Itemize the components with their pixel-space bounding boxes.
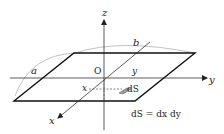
z-axis-label: z xyxy=(101,7,108,18)
inner-x-label: x xyxy=(82,83,87,93)
ds-label: dS xyxy=(127,84,139,94)
side-b-label: b xyxy=(133,37,139,48)
side-a-label: a xyxy=(31,65,37,76)
surface-element-diagram: z y x O a b y x dS dS = dx dy xyxy=(0,0,224,134)
x-axis-label: x xyxy=(49,115,55,126)
origin-label: O xyxy=(94,66,101,76)
inner-y-label: y xyxy=(131,66,138,76)
ds-formula: dS = dx dy xyxy=(131,109,182,119)
y-axis-label: y xyxy=(208,74,215,85)
region-parallelogram xyxy=(14,53,195,101)
